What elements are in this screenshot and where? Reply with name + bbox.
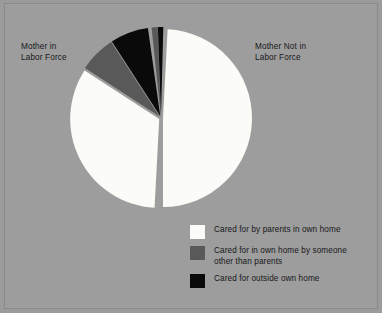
pie-slice bbox=[163, 29, 252, 207]
legend-item: Cared for in own home by someone other t… bbox=[190, 245, 376, 267]
legend-swatch-own-home-other bbox=[190, 246, 205, 260]
legend-item: Cared for by parents in own home bbox=[190, 224, 376, 239]
legend-item: Cared for outside own home bbox=[190, 273, 376, 288]
legend-label: Cared for outside own home bbox=[214, 273, 319, 285]
legend-label: Cared for in own home by someone other t… bbox=[214, 245, 347, 267]
legend-swatch-parents-own-home bbox=[190, 225, 205, 239]
legend-swatch-outside-own-home bbox=[190, 274, 205, 288]
figure-container: Mother in Labor Force Mother Not in Labo… bbox=[0, 0, 382, 313]
chart-legend: Cared for by parents in own home Cared f… bbox=[190, 224, 376, 294]
pie-label-mother-not-in-labor-force: Mother Not in Labor Force bbox=[255, 41, 306, 63]
pie-slice-group bbox=[70, 27, 252, 208]
legend-label: Cared for by parents in own home bbox=[214, 224, 341, 236]
pie-label-mother-in-labor-force: Mother in Labor Force bbox=[21, 41, 67, 63]
